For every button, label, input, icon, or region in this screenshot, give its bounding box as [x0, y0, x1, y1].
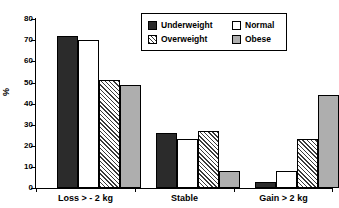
y-tick-label-50: 50: [13, 79, 33, 87]
y-tick-label-40: 40: [13, 100, 33, 108]
y-tick-label-20: 20: [13, 142, 33, 150]
chart-legend: Underweight Normal Overweight Obese: [141, 13, 287, 51]
y-tick-label-0: 0: [13, 184, 33, 192]
bar-gain-overweight: [297, 139, 318, 188]
y-tick-label-10: 10: [13, 163, 33, 171]
x-tick-mark-1: [135, 188, 136, 192]
legend-item-obese: Obese: [232, 35, 271, 44]
bar-loss-normal: [78, 40, 99, 188]
legend-item-overweight: Overweight: [148, 35, 232, 44]
x-tick-mark-2: [234, 188, 235, 192]
y-tick-label-30: 30: [13, 121, 33, 129]
legend-swatch-normal-icon: [232, 21, 241, 30]
y-tick-label-80: 80: [13, 15, 33, 23]
x-tick-mark-end: [332, 188, 333, 192]
y-axis-label: %: [2, 88, 11, 96]
legend-item-underweight: Underweight: [148, 21, 232, 30]
legend-swatch-obese-icon: [232, 35, 241, 44]
legend-row-1: Underweight Normal: [148, 18, 280, 32]
bar-stable-obese: [219, 171, 240, 188]
bar-loss-underweight: [57, 36, 78, 188]
legend-swatch-underweight-icon: [148, 21, 157, 30]
y-tick-label-60: 60: [13, 57, 33, 65]
legend-label-obese: Obese: [245, 35, 271, 44]
bar-gain-normal: [276, 171, 297, 188]
x-axis-label-loss: Loss > - 2 kg: [36, 193, 135, 203]
y-tick-label-70: 70: [13, 36, 33, 44]
legend-label-normal: Normal: [245, 21, 274, 30]
x-axis-label-stable: Stable: [135, 193, 234, 203]
bar-gain-obese: [318, 95, 339, 188]
x-axis-label-gain: Gain > 2 kg: [234, 193, 333, 203]
bar-loss-obese: [120, 85, 141, 189]
x-axis-line: [35, 188, 333, 189]
x-tick-mark-start: [36, 188, 37, 192]
bar-stable-overweight: [198, 131, 219, 188]
legend-swatch-overweight-icon: [148, 35, 157, 44]
legend-label-overweight: Overweight: [161, 35, 207, 44]
legend-item-normal: Normal: [232, 21, 274, 30]
legend-row-2: Overweight Obese: [148, 32, 280, 46]
bar-gain-underweight: [255, 182, 276, 188]
bar-stable-normal: [177, 139, 198, 188]
bar-stable-underweight: [156, 133, 177, 188]
legend-label-underweight: Underweight: [161, 21, 212, 30]
bar-chart: % 80 70 60 50 40 30 20 10 0 Loss > - 2 k…: [0, 0, 339, 208]
bar-loss-overweight: [99, 80, 120, 188]
